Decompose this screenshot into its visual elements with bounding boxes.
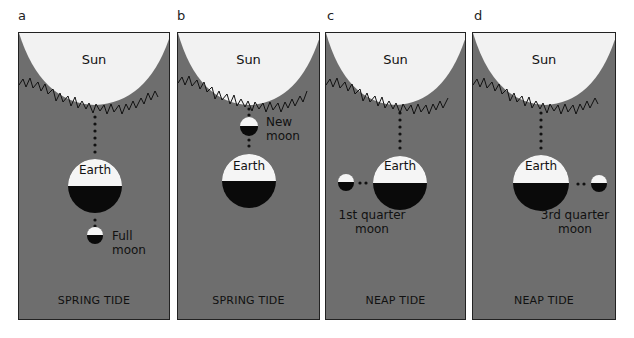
earth-label: Earth bbox=[511, 159, 571, 173]
panel-c-neap-tide-first-quarter: Sun Earth 1st quartermoon NEAP TIDE bbox=[325, 32, 466, 320]
earth-label: Earth bbox=[370, 159, 430, 173]
moon-icon bbox=[591, 175, 607, 192]
moon-label: Fullmoon bbox=[112, 229, 146, 257]
sun-corona-icon bbox=[178, 33, 320, 320]
panel-b-spring-tide-new-moon: Sun Newmoon Earth SPRING TIDE bbox=[177, 32, 320, 320]
tide-label: SPRING TIDE bbox=[19, 294, 169, 307]
panel-letter-a: a bbox=[18, 8, 26, 23]
sun-label: Sun bbox=[473, 52, 615, 67]
sun-label: Sun bbox=[178, 52, 319, 67]
earth-label: Earth bbox=[65, 163, 125, 177]
panel-letter-c: c bbox=[327, 8, 334, 23]
panel-letter-d: d bbox=[474, 8, 482, 23]
tide-label: NEAP TIDE bbox=[473, 294, 615, 307]
panel-letter-b: b bbox=[177, 8, 185, 23]
moon-label: Newmoon bbox=[266, 115, 300, 143]
moon-icon bbox=[338, 174, 354, 191]
sun-corona-icon bbox=[473, 33, 616, 320]
moon-icon bbox=[87, 227, 103, 244]
panel-d-neap-tide-third-quarter: Sun Earth 3rd quartermoon NEAP TIDE bbox=[472, 32, 616, 320]
sun-corona-icon bbox=[326, 33, 466, 320]
tide-label: NEAP TIDE bbox=[326, 294, 465, 307]
tide-label: SPRING TIDE bbox=[178, 294, 319, 307]
moon-label: 3rd quartermoon bbox=[535, 208, 615, 236]
earth-label: Earth bbox=[219, 159, 279, 173]
sun-label: Sun bbox=[19, 52, 169, 67]
panel-a-spring-tide-full-moon: Sun Earth Fullmoon SPRING TIDE bbox=[18, 32, 170, 320]
moon-icon bbox=[240, 117, 258, 136]
sun-label: Sun bbox=[326, 52, 465, 67]
moon-label: 1st quartermoon bbox=[332, 208, 412, 236]
